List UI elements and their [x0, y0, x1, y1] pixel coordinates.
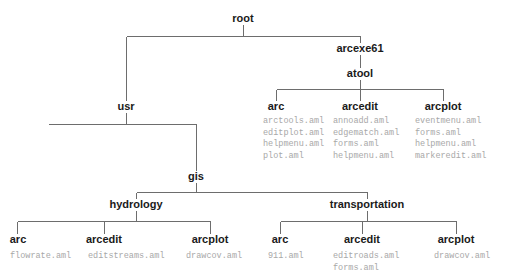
file-entry: markeredit.aml [415, 151, 486, 163]
node-transportation[interactable]: transportation [330, 198, 405, 210]
node-atool[interactable]: atool [347, 67, 373, 79]
file-list-atool-arc: arctools.amleditplot.amlhelpmenu.amlplot… [263, 116, 324, 162]
node-root[interactable]: root [232, 12, 253, 24]
node-hydrology-arcplot[interactable]: arcplot [192, 233, 229, 245]
file-list-hydrology-arc: flowrate.aml [10, 251, 71, 263]
file-entry: forms.aml [333, 139, 399, 151]
node-atool-arcplot[interactable]: arcplot [425, 100, 462, 112]
file-entry: flowrate.aml [10, 251, 71, 263]
file-entry: editplot.aml [263, 128, 324, 140]
node-transportation-arcplot[interactable]: arcplot [438, 233, 475, 245]
file-entry: edgematch.aml [333, 128, 399, 140]
file-entry: editroads.aml [333, 251, 399, 263]
file-entry: forms.aml [415, 128, 486, 140]
node-atool-arc[interactable]: arc [268, 100, 285, 112]
file-list-atool-arcplot: eventmenu.amlforms.amlhelpmenu.amlmarker… [415, 116, 486, 162]
file-entry: helpmenu.aml [415, 139, 486, 151]
file-list-transportation-arcedit: editroads.amlforms.aml [333, 251, 399, 274]
node-hydrology-arc[interactable]: arc [10, 233, 27, 245]
file-list-transportation-arc: 911.aml [268, 251, 304, 263]
file-entry: 911.aml [268, 251, 304, 263]
file-entry: helpmenu.aml [333, 151, 399, 163]
node-transportation-arcedit[interactable]: arcedit [344, 233, 380, 245]
file-list-hydrology-arcedit: editstreams.aml [88, 251, 165, 263]
file-entry: forms.aml [333, 263, 399, 275]
node-transportation-arc[interactable]: arc [272, 233, 289, 245]
file-entry: editstreams.aml [88, 251, 165, 263]
file-entry: arctools.aml [263, 116, 324, 128]
node-hydrology-arcedit[interactable]: arcedit [86, 233, 122, 245]
file-entry: annoadd.aml [333, 116, 399, 128]
node-arcexe61[interactable]: arcexe61 [336, 42, 383, 54]
file-list-transportation-arcplot: drawcov.aml [434, 251, 490, 263]
file-entry: helpmenu.aml [263, 139, 324, 151]
file-entry: drawcov.aml [186, 251, 242, 263]
node-gis[interactable]: gis [188, 170, 204, 182]
file-entry: eventmenu.aml [415, 116, 486, 128]
node-usr[interactable]: usr [117, 100, 134, 112]
node-hydrology[interactable]: hydrology [109, 198, 162, 210]
file-list-atool-arcedit: annoadd.amledgematch.amlforms.amlhelpmen… [333, 116, 399, 162]
file-list-hydrology-arcplot: drawcov.aml [186, 251, 242, 263]
node-atool-arcedit[interactable]: arcedit [342, 100, 378, 112]
file-entry: plot.aml [263, 151, 324, 163]
file-entry: drawcov.aml [434, 251, 490, 263]
